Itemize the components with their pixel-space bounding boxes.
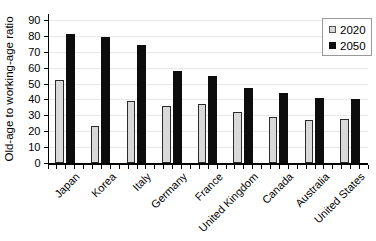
- bar-2050-france: [208, 76, 217, 163]
- bar-2020-australia: [305, 120, 314, 163]
- bar-2020-germany: [162, 106, 171, 163]
- x-tick-8: [119, 165, 120, 169]
- x-tick-31: [323, 165, 324, 169]
- bar-2020-united-states: [340, 119, 349, 163]
- bar-2050-germany: [173, 71, 182, 163]
- x-tick-13: [163, 165, 164, 169]
- y-tick-label-60: 60: [19, 63, 41, 74]
- x-tick-30: [315, 165, 316, 169]
- bar-2020-united-kingdom: [233, 112, 242, 163]
- bar-2050-italy: [137, 45, 146, 163]
- x-tick-3: [74, 165, 75, 169]
- x-tick-16: [190, 165, 191, 169]
- x-category-label-france: France: [193, 171, 225, 203]
- x-tick-25: [270, 165, 271, 169]
- bar-2050-united-states: [351, 99, 360, 163]
- x-tick-18: [208, 165, 209, 169]
- x-tick-35: [359, 165, 360, 169]
- bar-2020-france: [198, 104, 207, 163]
- x-category-label-italy: Italy: [131, 171, 153, 193]
- y-axis-line: [48, 14, 49, 163]
- x-tick-28: [297, 165, 298, 169]
- bar-2050-canada: [279, 93, 288, 163]
- gridline-60: [49, 68, 369, 69]
- x-tick-21: [234, 165, 235, 169]
- x-tick-14: [172, 165, 173, 169]
- x-tick-12: [154, 165, 155, 169]
- y-tick-label-40: 40: [19, 94, 41, 105]
- legend-label-2020: 2020: [340, 24, 366, 36]
- legend-label-2050: 2050: [340, 40, 366, 52]
- x-tick-32: [332, 165, 333, 169]
- x-category-label-korea: Korea: [89, 171, 118, 200]
- x-tick-19: [217, 165, 218, 169]
- gridline-90: [49, 20, 369, 21]
- legend-swatch-2050: [329, 42, 336, 49]
- gridline-70: [49, 52, 369, 53]
- x-category-label-canada: Canada: [261, 171, 296, 206]
- x-category-label-japan: Japan: [53, 171, 82, 200]
- x-tick-5: [92, 165, 93, 169]
- x-tick-34: [350, 165, 351, 169]
- y-tick-label-90: 90: [19, 15, 41, 26]
- x-category-label-germany: Germany: [149, 171, 189, 211]
- x-tick-4: [83, 165, 84, 169]
- y-tick-label-30: 30: [19, 110, 41, 121]
- x-tick-23: [252, 165, 253, 169]
- x-tick-0: [48, 165, 49, 169]
- y-axis-title: Old-age to working-age ratio: [3, 14, 15, 164]
- legend-swatch-2020: [329, 26, 336, 33]
- bar-2020-japan: [55, 80, 64, 163]
- bar-2050-australia: [315, 98, 324, 163]
- y-tick-label-10: 10: [19, 142, 41, 153]
- x-tick-6: [101, 165, 102, 169]
- gridline-80: [49, 36, 369, 37]
- x-tick-26: [279, 165, 280, 169]
- bar-2050-japan: [66, 34, 75, 163]
- bar-2020-korea: [91, 126, 100, 163]
- x-tick-24: [261, 165, 262, 169]
- x-tick-15: [181, 165, 182, 169]
- x-tick-1: [56, 165, 57, 169]
- x-tick-33: [341, 165, 342, 169]
- y-tick-label-80: 80: [19, 31, 41, 42]
- x-tick-9: [128, 165, 129, 169]
- x-tick-29: [306, 165, 307, 169]
- legend: 2020 2050: [322, 18, 372, 56]
- x-tick-11: [145, 165, 146, 169]
- y-tick-label-20: 20: [19, 126, 41, 137]
- y-tick-label-70: 70: [19, 47, 41, 58]
- x-tick-36: [368, 165, 369, 169]
- x-tick-20: [226, 165, 227, 169]
- x-tick-10: [137, 165, 138, 169]
- x-tick-2: [65, 165, 66, 169]
- y-tick-label-50: 50: [19, 79, 41, 90]
- bar-chart: Old-age to working-age ratio 01020304050…: [0, 0, 376, 241]
- bar-2050-korea: [101, 37, 110, 163]
- x-tick-7: [110, 165, 111, 169]
- bar-2020-italy: [127, 101, 136, 163]
- x-tick-17: [199, 165, 200, 169]
- bar-2020-canada: [269, 117, 278, 163]
- legend-item-2050: 2050: [329, 39, 371, 52]
- y-tick-label-0: 0: [19, 158, 41, 169]
- legend-item-2020: 2020: [329, 23, 371, 36]
- bar-2050-united-kingdom: [244, 88, 253, 163]
- x-tick-27: [288, 165, 289, 169]
- x-tick-22: [243, 165, 244, 169]
